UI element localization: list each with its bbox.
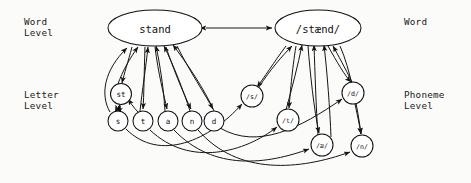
node-word-stand[interactable]: stand: [108, 10, 202, 46]
edges-phonemes-to-word: [259, 45, 352, 137]
node-phoneme-n-label: /n/: [356, 143, 368, 151]
node-phoneme-ae[interactable]: /æ/: [311, 134, 333, 156]
edges-phoneme-internal: [355, 104, 361, 134]
node-letter-d[interactable]: d: [204, 111, 224, 131]
node-letter-cluster-st[interactable]: st: [111, 84, 132, 105]
level-label-letter-left: Letter Level: [24, 89, 59, 111]
node-phoneme-d-label: /d/: [347, 90, 359, 98]
edges-word-to-letters: [122, 47, 132, 83]
node-letter-n-label: n: [190, 117, 195, 126]
node-letter-t-label: t: [141, 117, 146, 126]
node-letter-a-label: a: [166, 117, 171, 126]
node-letter-t[interactable]: t: [133, 111, 153, 131]
node-letter-d-label: d: [212, 117, 217, 126]
level-label-word-left: Word Level: [24, 16, 53, 38]
node-phoneme-t-label: /t/: [282, 117, 294, 125]
node-letter-n[interactable]: n: [182, 111, 202, 131]
node-phoneme-s[interactable]: /s/: [241, 85, 263, 107]
node-phoneme-t[interactable]: /t/: [277, 109, 299, 131]
diagram-svg: stand /stænd/ st s t a n: [0, 0, 471, 183]
node-letter-s[interactable]: s: [108, 111, 128, 131]
node-word-stand-label: stand: [139, 23, 171, 35]
node-letter-cluster-st-label: st: [116, 90, 125, 99]
node-word-staend[interactable]: /stænd/: [275, 10, 361, 46]
level-label-phoneme-right: Phoneme Level: [404, 89, 445, 111]
node-phoneme-ae-label: /æ/: [316, 142, 328, 150]
node-word-staend-label: /stænd/: [296, 23, 340, 35]
node-phoneme-s-label: /s/: [246, 93, 258, 101]
node-phoneme-n[interactable]: /n/: [351, 135, 373, 157]
node-phoneme-d[interactable]: /d/: [342, 82, 364, 104]
node-letter-a[interactable]: a: [158, 111, 178, 131]
diagram-canvas: stand /stænd/ st s t a n: [0, 0, 471, 183]
node-letter-s-label: s: [116, 117, 121, 126]
level-label-word-right: Word: [404, 16, 427, 27]
